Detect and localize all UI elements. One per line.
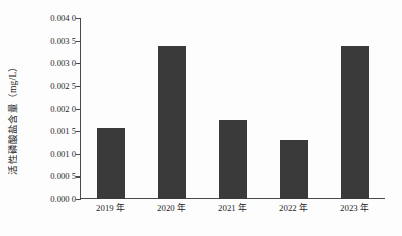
bar [158, 46, 186, 199]
x-axis-tick-label-group: 2019 年2020 年2021 年2022 年2023 年 [80, 203, 385, 223]
y-axis-tick-label: 0.003 0 [26, 59, 76, 68]
y-axis-tick-label: 0.002 5 [26, 81, 76, 90]
plot-area [80, 18, 385, 199]
y-axis-tick-label: 0.003 5 [26, 36, 76, 45]
bar [219, 120, 247, 199]
bar [280, 140, 308, 199]
y-axis-title: 活性磷酸盐含量（mg/L） [2, 0, 22, 236]
y-axis-tick-label: 0.000 5 [26, 172, 76, 181]
y-axis-tick-label: 0.004 0 [26, 14, 76, 23]
y-axis-tick-label-group: 0.000 00.000 50.001 00.001 50.002 00.002… [26, 0, 76, 236]
bar-series [80, 18, 385, 199]
y-axis-tick-label: 0.001 0 [26, 149, 76, 158]
y-axis-tick-label: 0.001 5 [26, 127, 76, 136]
x-axis-tick-label: 2023 年 [319, 203, 391, 214]
bar-chart-figure: 活性磷酸盐含量（mg/L） 0.000 00.000 50.001 00.001… [0, 0, 402, 236]
y-axis-tick-label: 0.002 0 [26, 104, 76, 113]
y-axis-tick-mark [76, 199, 81, 200]
bar [97, 128, 125, 199]
bar [341, 46, 369, 199]
y-axis-tick-label: 0.000 0 [26, 195, 76, 204]
